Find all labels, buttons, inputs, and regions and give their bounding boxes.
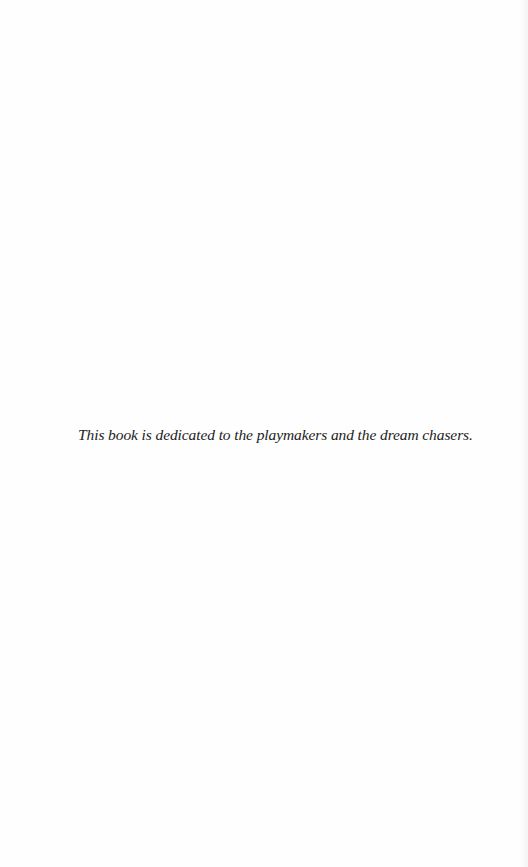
dedication-text: This book is dedicated to the playmakers… bbox=[78, 426, 473, 444]
book-page: This book is dedicated to the playmakers… bbox=[0, 0, 528, 867]
page-edge-shadow bbox=[520, 0, 528, 867]
